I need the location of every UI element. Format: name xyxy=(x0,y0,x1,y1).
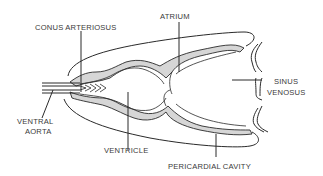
label-ventral-aorta-1: VENTRAL xyxy=(17,117,53,126)
label-ventricle: VENTRICLE xyxy=(104,146,148,155)
heart-diagram: CONUS ARTERIOSUS ATRIUM SINUS VENOSUS VE… xyxy=(0,0,323,176)
label-sinus-venosus-1: SINUS xyxy=(274,77,298,86)
label-conus-arteriosus: CONUS ARTERIOSUS xyxy=(35,23,117,32)
conus-valves xyxy=(80,84,106,92)
upper-heart-wall xyxy=(70,45,244,94)
label-atrium: ATRIUM xyxy=(160,12,190,21)
label-pericardial-cavity: PERICARDIAL CAVITY xyxy=(168,162,251,171)
label-ventral-aorta-2: AORTA xyxy=(25,127,52,136)
label-sinus-venosus-2: VENOSUS xyxy=(267,88,306,97)
sinus-venosus-wall xyxy=(251,42,268,132)
